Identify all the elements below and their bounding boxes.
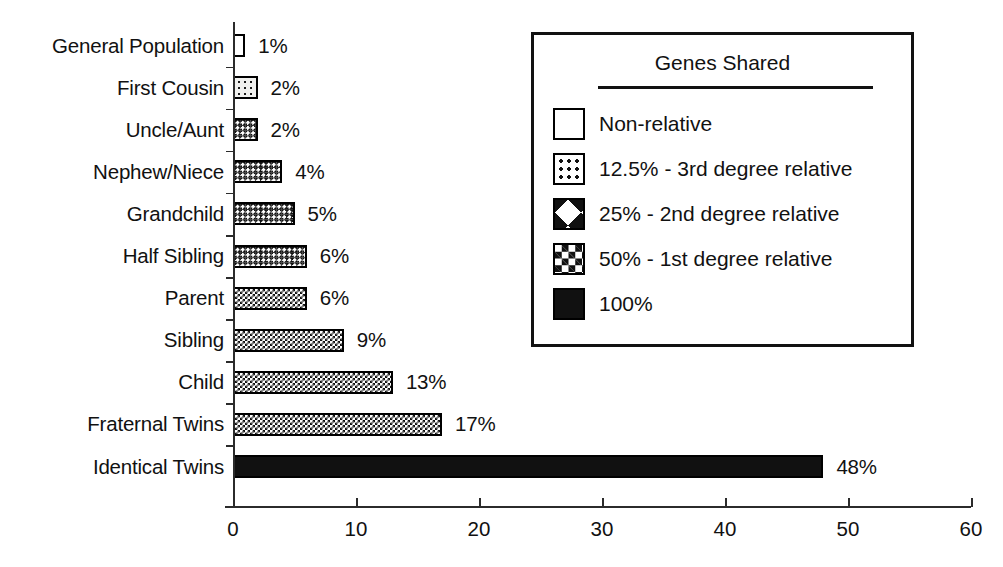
bar [233,118,258,141]
value-label: 6% [320,288,349,309]
legend-item: Non-relative [553,101,903,146]
value-label: 4% [295,162,324,183]
value-label: 6% [320,246,349,267]
bar [233,160,282,183]
category-label: Grandchild [127,204,224,225]
x-axis-tick [479,498,481,507]
legend-item-label: 12.5% - 3rd degree relative [599,158,852,179]
legend-item-label: 50% - 1st degree relative [599,248,832,269]
legend-swatch-checker-icon [553,243,585,275]
bar [233,202,295,225]
category-label: General Population [52,36,224,57]
category-label: Child [178,372,224,393]
legend: Genes Shared Non-relative12.5% - 3rd deg… [531,32,914,347]
value-label: 48% [836,457,876,478]
value-label: 17% [455,414,495,435]
y-axis-tick [226,319,233,321]
x-axis-tick [602,498,604,507]
legend-item-label: 25% - 2nd degree relative [599,203,840,224]
legend-swatch-solid-icon [553,288,585,320]
x-axis-tick [356,498,358,507]
legend-item-label: Non-relative [599,113,712,134]
value-label: 1% [258,36,287,57]
bar-chart: General Population1%First Cousin2%Uncle/… [0,0,1003,567]
legend-item: 50% - 1st degree relative [553,236,903,281]
x-axis-tick-label: 50 [837,519,860,540]
y-axis-tick [226,109,233,111]
category-label: First Cousin [117,78,224,99]
legend-swatch-dots-icon [553,153,585,185]
y-axis-tick [226,361,233,363]
bar [233,413,442,436]
x-axis-tick [848,498,850,507]
value-label: 9% [357,330,386,351]
category-label: Fraternal Twins [87,414,224,435]
x-axis-line [225,506,971,508]
x-axis-tick-label: 20 [468,519,491,540]
legend-title: Genes Shared [534,52,911,73]
y-axis-tick [226,151,233,153]
category-label: Sibling [164,330,224,351]
category-label: Parent [165,288,224,309]
x-axis-tick-label: 60 [960,519,983,540]
legend-item: 25% - 2nd degree relative [553,191,903,236]
y-axis-tick [226,445,233,447]
x-axis-tick [233,498,235,507]
x-axis-tick-label: 30 [591,519,614,540]
legend-item: 12.5% - 3rd degree relative [553,146,903,191]
x-axis-tick [971,498,973,507]
x-axis-tick-label: 10 [345,519,368,540]
legend-swatch-none-icon [553,108,585,140]
bar [233,287,307,310]
x-axis-tick-label: 40 [714,519,737,540]
value-label: 5% [308,204,337,225]
y-axis-tick [226,67,233,69]
bar [233,329,344,352]
y-axis-tick [226,403,233,405]
bar [233,34,245,57]
bar [233,76,258,99]
category-label: Half Sibling [123,246,224,267]
bar [233,245,307,268]
y-axis-tick [226,235,233,237]
value-label: 2% [271,120,300,141]
y-axis-line [233,22,235,506]
category-label: Uncle/Aunt [126,120,224,141]
y-axis-tick [226,277,233,279]
legend-title-underline [598,86,873,89]
bar [233,455,823,478]
y-axis-tick [226,193,233,195]
bar [233,371,393,394]
legend-item-list: Non-relative12.5% - 3rd degree relative2… [553,101,903,326]
value-label: 2% [271,78,300,99]
legend-item-label: 100% [599,293,653,314]
x-axis-tick-label: 0 [227,519,238,540]
legend-swatch-cross-icon [553,198,585,230]
category-label: Nephew/Niece [93,162,224,183]
x-axis-tick [725,498,727,507]
category-label: Identical Twins [93,457,224,478]
value-label: 13% [406,372,446,393]
legend-item: 100% [553,281,903,326]
